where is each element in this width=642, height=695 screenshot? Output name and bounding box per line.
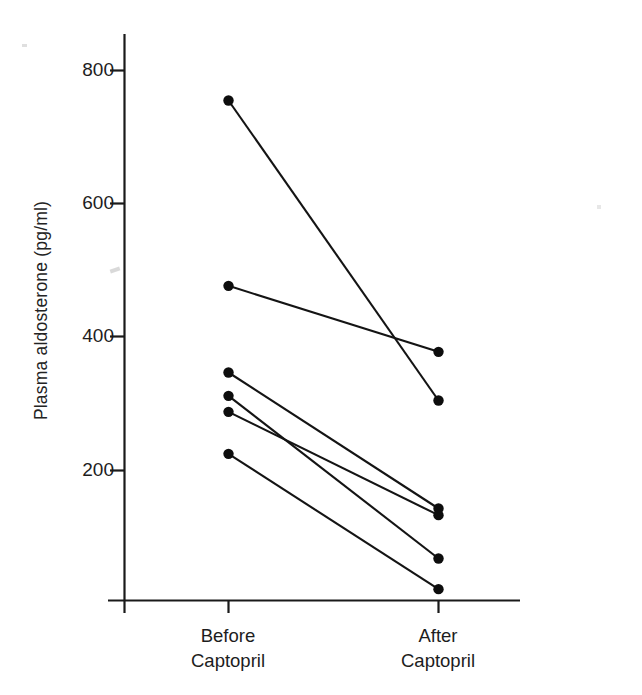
data-series-2 bbox=[223, 281, 443, 357]
connector-line bbox=[229, 396, 439, 559]
connector-line bbox=[229, 286, 439, 352]
data-point-marker-after bbox=[433, 553, 443, 563]
data-series-3 bbox=[223, 367, 443, 513]
data-point-marker-before bbox=[223, 281, 233, 291]
data-point-marker-after bbox=[433, 395, 443, 405]
data-point-marker-before bbox=[223, 449, 233, 459]
x-axis-ticks bbox=[125, 600, 439, 613]
scan-artifact-speck-3 bbox=[597, 205, 601, 209]
data-point-marker-before bbox=[223, 367, 233, 377]
connector-line bbox=[229, 412, 439, 515]
data-point-marker-after bbox=[433, 347, 443, 357]
data-series-layer bbox=[223, 95, 443, 594]
connector-line bbox=[229, 101, 439, 401]
data-point-marker-after bbox=[433, 584, 443, 594]
data-series-4 bbox=[223, 391, 443, 564]
connector-line bbox=[229, 454, 439, 589]
axis-lines bbox=[108, 34, 520, 601]
data-series-5 bbox=[223, 407, 443, 521]
figure-panel: Plasma aldosterone (pg/ml) 800 600 400 2… bbox=[0, 0, 642, 695]
data-point-marker-after bbox=[433, 510, 443, 520]
data-point-marker-before bbox=[223, 407, 233, 417]
data-series-1 bbox=[223, 95, 443, 405]
plot-area bbox=[0, 0, 642, 695]
data-point-marker-before bbox=[223, 391, 233, 401]
data-series-6 bbox=[223, 449, 443, 595]
data-point-marker-before bbox=[223, 95, 233, 105]
connector-line bbox=[229, 373, 439, 509]
scan-artifact-speck-2 bbox=[22, 44, 27, 47]
